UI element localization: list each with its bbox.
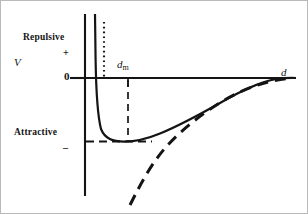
axis-sign-label-positive: + bbox=[63, 48, 69, 58]
y-axis-label: V bbox=[14, 57, 21, 68]
axis-sign-label-negative: – bbox=[63, 143, 68, 153]
x-axis-label: d bbox=[281, 67, 287, 78]
axis-region-label-attractive: Attractive bbox=[14, 128, 57, 138]
potential-energy-figure: Repulsive + V 0 Attractive – dm d bbox=[0, 0, 308, 214]
dm-subscript: m bbox=[123, 63, 129, 72]
equilibrium-separation-label: dm bbox=[117, 59, 129, 72]
y-axis-zero-label: 0 bbox=[64, 71, 70, 82]
axis-region-label-repulsive: Repulsive bbox=[23, 33, 64, 43]
